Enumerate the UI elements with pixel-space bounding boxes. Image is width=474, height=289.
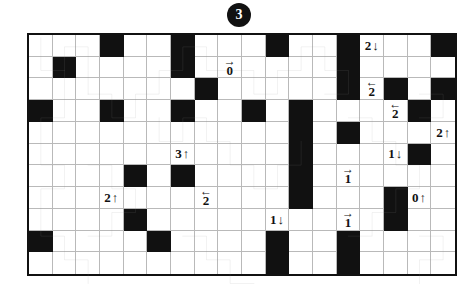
grid-cell-r0-c11[interactable] <box>289 35 313 57</box>
grid-cell-r4-c16[interactable] <box>408 122 432 144</box>
puzzle-grid-frame[interactable]: 2↓→0←2←2←52↑3↑1↓2↑→1→12↑←20↑1↓→11↓←2 <box>27 33 457 276</box>
grid-cell-r10-c12[interactable] <box>313 252 337 274</box>
grid-cell-r7-c4[interactable] <box>124 187 148 209</box>
grid-cell-r10-c9[interactable] <box>242 252 266 274</box>
grid-cell-r4-c2[interactable] <box>76 122 100 144</box>
grid-cell-r7-c1[interactable] <box>53 187 77 209</box>
grid-cell-r8-c3[interactable] <box>100 209 124 231</box>
grid-cell-r1-c0[interactable] <box>29 57 53 79</box>
puzzle-grid[interactable]: 2↓→0←2←2←52↑3↑1↓2↑→1→12↑←20↑1↓→11↓←2 <box>29 35 455 274</box>
grid-cell-r10-c7[interactable] <box>195 252 219 274</box>
grid-cell-r8-c0[interactable] <box>29 209 53 231</box>
grid-cell-r7-c14[interactable] <box>360 187 384 209</box>
grid-cell-r6-c9[interactable] <box>242 165 266 187</box>
grid-cell-r9-c2[interactable] <box>76 231 100 253</box>
clue-cell-r0-c14[interactable]: 2↓ <box>360 35 384 57</box>
grid-cell-r1-c3[interactable] <box>100 57 124 79</box>
grid-cell-r0-c2[interactable] <box>76 35 100 57</box>
grid-cell-r8-c17[interactable] <box>431 209 455 231</box>
grid-cell-r3-c4[interactable] <box>124 100 148 122</box>
grid-cell-r8-c11[interactable] <box>289 209 313 231</box>
grid-cell-r8-c12[interactable] <box>313 209 337 231</box>
grid-cell-r3-c7[interactable] <box>195 100 219 122</box>
grid-cell-r5-c14[interactable] <box>360 144 384 166</box>
grid-cell-r9-c4[interactable] <box>124 231 148 253</box>
clue-cell-r4-c13[interactable]: ←5 <box>337 122 361 144</box>
grid-cell-r2-c12[interactable] <box>313 78 337 100</box>
grid-cell-r6-c8[interactable] <box>218 165 242 187</box>
grid-cell-r3-c12[interactable] <box>313 100 337 122</box>
grid-cell-r4-c5[interactable] <box>147 122 171 144</box>
grid-cell-r3-c2[interactable] <box>76 100 100 122</box>
grid-cell-r1-c12[interactable] <box>313 57 337 79</box>
grid-cell-r4-c7[interactable] <box>195 122 219 144</box>
grid-cell-r0-c7[interactable] <box>195 35 219 57</box>
grid-cell-r4-c15[interactable] <box>384 122 408 144</box>
grid-cell-r10-c8[interactable] <box>218 252 242 274</box>
grid-cell-r3-c14[interactable] <box>360 100 384 122</box>
clue-cell-r6-c6[interactable]: →1 <box>171 165 195 187</box>
grid-cell-r4-c14[interactable] <box>360 122 384 144</box>
grid-cell-r3-c17[interactable] <box>431 100 455 122</box>
grid-cell-r2-c9[interactable] <box>242 78 266 100</box>
grid-cell-r0-c1[interactable] <box>53 35 77 57</box>
grid-cell-r0-c15[interactable] <box>384 35 408 57</box>
grid-cell-r0-c0[interactable] <box>29 35 53 57</box>
grid-cell-r5-c4[interactable] <box>124 144 148 166</box>
grid-cell-r1-c5[interactable] <box>147 57 171 79</box>
grid-cell-r9-c11[interactable] <box>289 231 313 253</box>
grid-cell-r10-c11[interactable] <box>289 252 313 274</box>
grid-cell-r5-c9[interactable] <box>242 144 266 166</box>
grid-cell-r4-c0[interactable] <box>29 122 53 144</box>
grid-cell-r8-c8[interactable] <box>218 209 242 231</box>
grid-cell-r1-c9[interactable] <box>242 57 266 79</box>
grid-cell-r6-c2[interactable] <box>76 165 100 187</box>
grid-cell-r1-c2[interactable] <box>76 57 100 79</box>
grid-cell-r6-c17[interactable] <box>431 165 455 187</box>
grid-cell-r4-c8[interactable] <box>218 122 242 144</box>
grid-cell-r8-c9[interactable] <box>242 209 266 231</box>
grid-cell-r9-c3[interactable] <box>100 231 124 253</box>
grid-cell-r7-c0[interactable] <box>29 187 53 209</box>
grid-cell-r2-c4[interactable] <box>124 78 148 100</box>
clue-cell-r1-c8[interactable]: →0 <box>218 57 242 79</box>
grid-cell-r4-c12[interactable] <box>313 122 337 144</box>
grid-cell-r3-c5[interactable] <box>147 100 171 122</box>
clue-cell-r7-c7[interactable]: ←2 <box>195 187 219 209</box>
grid-cell-r8-c16[interactable] <box>408 209 432 231</box>
clue-cell-r8-c10[interactable]: 1↓ <box>266 209 290 231</box>
grid-cell-r2-c8[interactable] <box>218 78 242 100</box>
grid-cell-r8-c14[interactable] <box>360 209 384 231</box>
grid-cell-r4-c6[interactable] <box>171 122 195 144</box>
grid-cell-r2-c3[interactable] <box>100 78 124 100</box>
grid-cell-r9-c6[interactable] <box>171 231 195 253</box>
grid-cell-r9-c9[interactable] <box>242 231 266 253</box>
grid-cell-r1-c15[interactable] <box>384 57 408 79</box>
grid-cell-r5-c3[interactable] <box>100 144 124 166</box>
grid-cell-r10-c14[interactable] <box>360 252 384 274</box>
grid-cell-r10-c4[interactable] <box>124 252 148 274</box>
clue-cell-r8-c15[interactable]: 1↓ <box>384 209 408 231</box>
grid-cell-r10-c17[interactable] <box>431 252 455 274</box>
grid-cell-r6-c16[interactable] <box>408 165 432 187</box>
grid-cell-r8-c7[interactable] <box>195 209 219 231</box>
grid-cell-r5-c1[interactable] <box>53 144 77 166</box>
grid-cell-r9-c1[interactable] <box>53 231 77 253</box>
clue-cell-r5-c16[interactable]: 2↑ <box>408 144 432 166</box>
grid-cell-r2-c1[interactable] <box>53 78 77 100</box>
grid-cell-r2-c6[interactable] <box>171 78 195 100</box>
grid-cell-r3-c10[interactable] <box>266 100 290 122</box>
grid-cell-r10-c2[interactable] <box>76 252 100 274</box>
clue-cell-r6-c13[interactable]: →1 <box>337 165 361 187</box>
grid-cell-r1-c16[interactable] <box>408 57 432 79</box>
grid-cell-r5-c17[interactable] <box>431 144 455 166</box>
grid-cell-r7-c6[interactable] <box>171 187 195 209</box>
clue-cell-r5-c15[interactable]: 1↓ <box>384 144 408 166</box>
grid-cell-r8-c6[interactable] <box>171 209 195 231</box>
grid-cell-r0-c5[interactable] <box>147 35 171 57</box>
grid-cell-r1-c7[interactable] <box>195 57 219 79</box>
grid-cell-r7-c9[interactable] <box>242 187 266 209</box>
grid-cell-r6-c1[interactable] <box>53 165 77 187</box>
grid-cell-r10-c3[interactable] <box>100 252 124 274</box>
grid-cell-r5-c12[interactable] <box>313 144 337 166</box>
